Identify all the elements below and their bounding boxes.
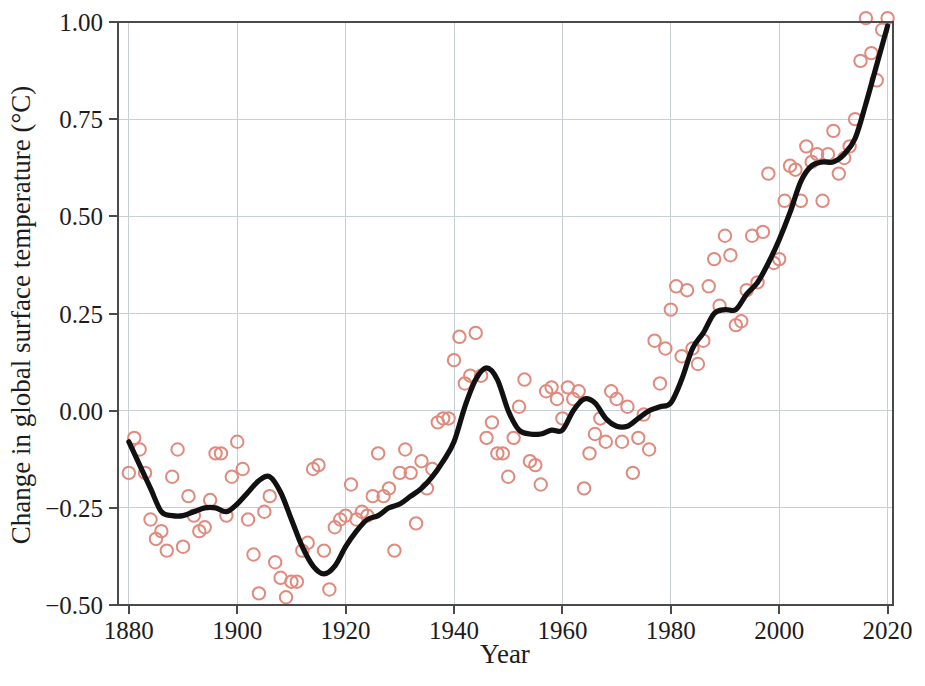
y-tick-label: −0.25 [45, 495, 103, 522]
x-tick-label: 1880 [104, 617, 154, 644]
global-temperature-anomaly-chart: 18801900192019401960198020002020 −0.50−0… [0, 0, 925, 686]
x-tick-label: 2000 [754, 617, 804, 644]
y-tick-label: 0.25 [59, 301, 103, 328]
y-tick-label: 0.50 [59, 203, 103, 230]
x-tick-label: 1980 [646, 617, 696, 644]
y-tick-label: 0.00 [59, 398, 103, 425]
x-tick-label: 1900 [212, 617, 262, 644]
y-tick-label: −0.50 [45, 592, 103, 619]
y-tick-label: 1.00 [59, 9, 103, 36]
x-tick-label: 1940 [429, 617, 479, 644]
figure-container: 18801900192019401960198020002020 −0.50−0… [0, 0, 925, 686]
x-tick-label: 1920 [321, 617, 371, 644]
x-axis-title: Year [480, 639, 530, 669]
x-tick-label: 1960 [537, 617, 587, 644]
x-tick-label: 2020 [863, 617, 913, 644]
y-tick-label: 0.75 [59, 106, 103, 133]
y-axis-title: Change in global surface temperature (°C… [6, 86, 36, 544]
